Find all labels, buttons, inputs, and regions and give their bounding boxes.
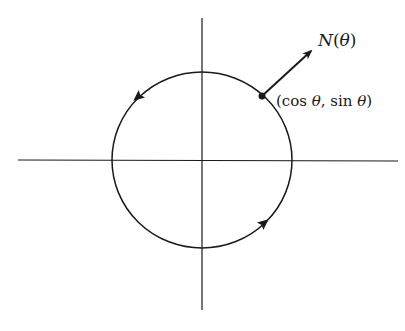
point-label-sin: , sin — [321, 92, 357, 110]
point-label-theta1: θ — [312, 92, 321, 110]
normal-label-theta: θ — [340, 30, 350, 50]
point-label-theta2: θ — [357, 92, 366, 110]
orientation-arrow-upper-left-icon — [130, 90, 145, 105]
point-on-circle — [259, 93, 266, 100]
point-label-cos: (cos — [276, 92, 312, 110]
point-label: (cos θ, sin θ) — [276, 92, 372, 110]
point-label-close: ) — [366, 92, 372, 110]
normal-label-open: ( — [333, 30, 340, 50]
horizontal-axis — [18, 160, 398, 161]
normal-label: N(θ) — [317, 30, 356, 50]
normal-label-N: N — [317, 30, 334, 50]
normal-vector-arrow — [262, 51, 311, 96]
normal-label-close: ) — [350, 30, 357, 50]
diagram-canvas: N(θ) (cos θ, sin θ) — [0, 0, 405, 331]
